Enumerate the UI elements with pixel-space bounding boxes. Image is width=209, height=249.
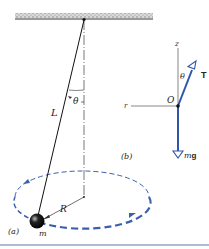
orbit-direction-arrow-front-icon: [129, 213, 136, 218]
z-axis-label: z: [174, 40, 179, 48]
weight-label-g: g: [192, 151, 197, 160]
weight-label: mg: [184, 151, 197, 160]
orbit-path-back: [15, 171, 149, 197]
tension-label: T: [201, 70, 207, 80]
panel-a: θ L R m (a): [8, 20, 151, 238]
angle-theta-label: θ: [73, 96, 79, 106]
orbit-path-front: [36, 197, 151, 229]
panel-b: z r θ T mg O (b): [121, 40, 207, 161]
origin-point: [176, 104, 180, 108]
weight-arrowhead-icon: [173, 151, 183, 158]
orbit-direction-arrow-icon: [23, 179, 30, 184]
r-axis-label: r: [124, 102, 128, 110]
angle-arc: [69, 90, 84, 91]
tension-arrowhead-icon: [188, 61, 196, 69]
ceiling: [15, 13, 153, 21]
conical-pendulum-diagram: θ L R m (a) z r θ T mg O (b): [0, 0, 209, 249]
pendulum-bob: [30, 214, 45, 229]
radius-label: R: [59, 204, 67, 214]
pendulum-string: [37, 20, 84, 220]
ceiling-hatch: [15, 13, 153, 18]
string-length-label: L: [50, 107, 58, 118]
origin-label: O: [167, 95, 175, 105]
panel-b-label: (b): [121, 152, 132, 161]
panel-a-label: (a): [8, 227, 19, 236]
angle-theta-label-b: θ: [180, 72, 185, 81]
angle-arrow-icon: [68, 96, 72, 99]
mass-label: m: [39, 229, 47, 238]
